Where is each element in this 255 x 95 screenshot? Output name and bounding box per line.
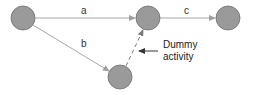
dummy-activity-annotation: Dummy activity: [163, 39, 197, 63]
edge-dummy: [126, 30, 143, 66]
network-diagram: [0, 0, 255, 95]
node-2: [136, 6, 160, 30]
edge-b: [33, 25, 109, 71]
node-1: [11, 6, 35, 30]
edge-label-c: c: [184, 6, 189, 16]
edge-label-a: a: [81, 6, 87, 16]
edge-label-b: b: [81, 39, 87, 49]
annotation-line-2: activity: [163, 51, 197, 63]
node-3: [216, 6, 240, 30]
annotation-line-1: Dummy: [163, 39, 197, 51]
node-4: [108, 65, 132, 89]
